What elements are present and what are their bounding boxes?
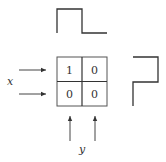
right-waveform xyxy=(133,57,158,106)
x-input-arrows: x xyxy=(7,70,46,94)
diagram-canvas: 1 0 0 0 x y xyxy=(0,0,166,162)
y-label: y xyxy=(78,143,86,156)
y-input-arrows: y xyxy=(70,116,95,156)
cell-0-1: 0 xyxy=(91,64,98,77)
x-label: x xyxy=(7,75,14,88)
matrix-grid: 1 0 0 0 xyxy=(57,57,107,106)
cell-1-0: 0 xyxy=(66,88,73,101)
top-waveform xyxy=(57,9,107,33)
cell-0-0: 1 xyxy=(66,64,73,77)
cell-1-1: 0 xyxy=(91,88,98,101)
